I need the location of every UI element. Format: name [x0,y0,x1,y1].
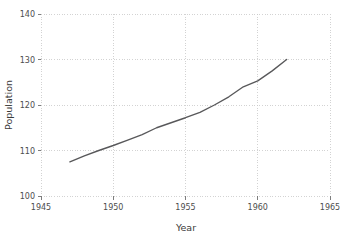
y-tick-label: 120 [20,101,35,110]
chart-background [0,0,342,238]
x-tick-label: 1945 [31,203,51,212]
line-chart-figure: 100110120130140 19451950195519601965 Yea… [0,0,342,238]
x-tick-label: 1965 [320,203,340,212]
x-tick-label: 1950 [103,203,123,212]
y-tick-label: 140 [20,10,35,19]
x-axis-title: Year [175,222,196,233]
y-tick-label: 100 [20,192,35,201]
y-axis-title: Population [3,80,14,130]
x-tick-label: 1955 [175,203,195,212]
y-tick-label: 110 [20,147,35,156]
x-tick-label: 1960 [248,203,268,212]
y-tick-label: 130 [20,56,35,65]
chart-canvas: 100110120130140 19451950195519601965 Yea… [0,0,342,238]
